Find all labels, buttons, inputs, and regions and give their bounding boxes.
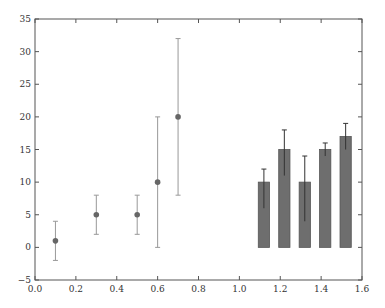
x-tick-label: 0.0 (28, 284, 43, 294)
plot-area (53, 39, 352, 261)
y-tick-label: 5 (25, 210, 31, 220)
bar (340, 136, 351, 247)
y-tick-label: 15 (20, 145, 32, 155)
x-tick-label: 0.6 (150, 284, 165, 294)
data-point (53, 238, 59, 244)
x-tick-label: 0.4 (110, 284, 125, 294)
y-tick-label: 25 (20, 79, 32, 89)
y-tick-label: 20 (20, 112, 32, 122)
x-tick-label: 0.2 (69, 284, 83, 294)
y-tick-label: −5 (18, 275, 32, 285)
y-tick-label: 35 (20, 14, 32, 24)
x-tick-label: 1.6 (355, 284, 370, 294)
chart: 0.00.20.40.60.81.01.21.41.6−505101520253… (0, 0, 385, 308)
data-point (175, 114, 181, 120)
axes: 0.00.20.40.60.81.01.21.41.6−505101520253… (18, 14, 370, 294)
y-tick-label: 30 (20, 47, 32, 57)
x-tick-label: 1.4 (314, 284, 329, 294)
data-point (134, 212, 140, 218)
data-point (94, 212, 100, 218)
axes-frame (35, 19, 362, 280)
x-tick-label: 1.2 (273, 284, 287, 294)
y-tick-label: 0 (25, 242, 31, 252)
x-tick-label: 1.0 (232, 284, 247, 294)
bar (320, 150, 331, 248)
x-tick-label: 0.8 (191, 284, 206, 294)
y-tick-label: 10 (20, 177, 32, 187)
data-point (155, 179, 161, 185)
